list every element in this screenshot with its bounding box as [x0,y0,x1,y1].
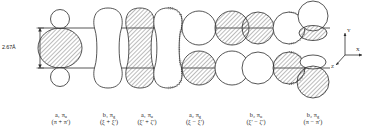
caption-mo-1: a₁ πu (π + π') [38,112,84,126]
caption-symmetry-3: a₁ π [141,111,151,118]
caption-symmetry-1: a₁ π [55,111,65,118]
caption-combination-1: (π + π') [38,119,84,126]
caption-combination-4: (ξ − ξ') [172,119,218,126]
caption-combination-6: (π − π') [290,119,336,126]
axis-label-z: Z [331,64,334,69]
dimension-label: 2.67Å [2,44,16,50]
caption-symmetry-4: a₂ π [189,111,199,118]
caption-mo-3: a₁ πu (ξ' + ζ') [124,112,170,126]
caption-combination-3: (ξ' + ζ') [124,119,170,126]
orbital-mo-3-partner [154,8,182,88]
caption-mo-4: a₂ πg (ξ − ξ') [172,112,218,126]
orbital-mo-2 [94,8,122,88]
axis-label-x: X [356,47,360,52]
orbital-mo-6 [297,1,329,98]
orbital-mo-5 [242,12,305,84]
caption-mo-5: b₂ πu (ξ' − ζ') [233,112,279,126]
caption-symmetry-2: b₁ π [103,111,113,118]
axis-label-y: Y [347,28,351,33]
orbital-mo-1 [38,10,82,87]
caption-symmetry-5: b₂ π [250,111,260,118]
orbital-mo-3 [126,8,154,88]
caption-combination-5: (ξ' − ζ') [233,119,279,126]
orbital-mo-4 [182,11,249,85]
caption-symmetry-6: b₂ π [307,111,317,118]
caption-mo-6: b₂ πg (π − π') [290,112,336,126]
